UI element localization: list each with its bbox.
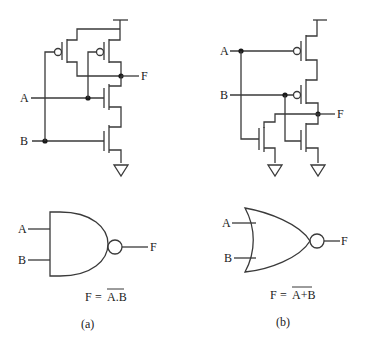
nor-transistor-circuit: F A B [220, 20, 344, 176]
input-label-b: B [20, 134, 28, 148]
ground-icon [114, 165, 128, 176]
nmos-transistor-icon [301, 114, 318, 163]
cmos-gates-diagram: F A B A B F [0, 0, 369, 350]
input-label-a: A [220, 44, 229, 58]
input-label-b: B [220, 88, 228, 102]
pmos-transistor-icon [294, 35, 318, 80]
ground-icon [311, 165, 325, 176]
vdd-supply-icon [306, 20, 327, 36]
nand-input-b: B [18, 253, 26, 267]
svg-text:F: F [85, 290, 92, 304]
nand-input-a: A [18, 222, 27, 236]
nor-input-b: B [224, 251, 232, 265]
nand-equation: F = A.B [85, 289, 127, 304]
nand-gate-symbol: A B F [18, 212, 157, 276]
nor-gate-symbol: A B F [222, 208, 348, 272]
nmos-transistor-icon [104, 125, 121, 163]
output-label-f: F [337, 107, 344, 121]
nand-equation-rhs: A.B [107, 290, 127, 304]
svg-text:F: F [270, 288, 277, 302]
svg-text:=: = [95, 290, 102, 304]
input-label-a: A [20, 91, 29, 105]
nor-input-a: A [222, 216, 231, 230]
nand-transistor-circuit: F A B [20, 20, 148, 176]
nor-equation: F = A+B [270, 287, 315, 302]
caption-b: (b) [276, 315, 290, 329]
output-label-f: F [141, 69, 148, 83]
nor-output-f: F [341, 234, 348, 248]
nmos-transistor-icon [104, 76, 121, 127]
pmos-transistor-icon [294, 79, 319, 114]
nmos-transistor-icon [259, 127, 275, 163]
svg-text:=: = [280, 288, 287, 302]
ground-icon [268, 165, 282, 176]
vdd-supply-icon [113, 20, 128, 29]
nor-equation-rhs: A+B [292, 288, 315, 302]
pmos-transistor-icon [97, 29, 122, 76]
nand-output-f: F [150, 240, 157, 254]
caption-a: (a) [81, 317, 94, 331]
